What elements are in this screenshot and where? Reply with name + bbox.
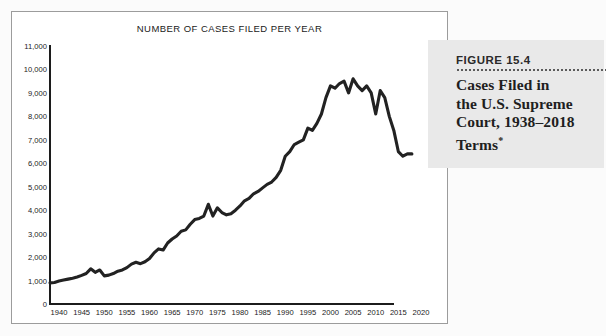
x-tick-label: 1950: [96, 308, 113, 317]
chart-title: NUMBER OF CASES FILED PER YEAR: [12, 23, 447, 34]
y-tick-label: 4,000: [12, 206, 47, 215]
x-tick-label: 1970: [186, 308, 203, 317]
x-tick-label: 1995: [299, 308, 316, 317]
figure-title-line-2: the U.S. Supreme: [456, 95, 604, 114]
x-tick-label: 1955: [118, 308, 135, 317]
plot-area: [50, 46, 430, 304]
caption-dotted-rule: [456, 69, 606, 71]
x-tick-label: 1965: [164, 308, 181, 317]
y-tick-label: 6,000: [12, 159, 47, 168]
x-tick-label: 2000: [322, 308, 339, 317]
figure-caption-panel: FIGURE 15.4 Cases Filed in the U.S. Supr…: [428, 40, 604, 168]
x-tick-label: 2020: [412, 308, 429, 317]
y-tick-label: 5,000: [12, 182, 47, 191]
y-tick-label: 1,000: [12, 276, 47, 285]
figure-title: Cases Filed in the U.S. Supreme Court, 1…: [456, 76, 604, 154]
x-tick-label: 2010: [367, 308, 384, 317]
y-tick-label: 7,000: [12, 135, 47, 144]
figure-title-line-4-wrap: Terms*: [456, 132, 604, 155]
x-tick-label: 2015: [390, 308, 407, 317]
x-tick-label: 2005: [345, 308, 362, 317]
figure-number-label: FIGURE 15.4: [456, 54, 604, 66]
figure-title-line-1: Cases Filed in: [456, 76, 604, 95]
y-tick-label: 10,000: [12, 65, 47, 74]
cases-filed-line-series: [50, 46, 430, 304]
x-tick-label: 1985: [254, 308, 271, 317]
y-tick-label: 9,000: [12, 88, 47, 97]
chart-panel: NUMBER OF CASES FILED PER YEAR 01,0002,0…: [11, 11, 448, 324]
x-tick-label: 1990: [277, 308, 294, 317]
y-tick-label: 3,000: [12, 229, 47, 238]
x-tick-label: 1945: [73, 308, 90, 317]
footnote-marker: *: [498, 135, 503, 146]
x-tick-label: 1960: [141, 308, 158, 317]
x-tick-label: 1980: [232, 308, 249, 317]
figure-title-line-4: Terms: [456, 136, 498, 153]
x-axis-tick-labels: 1940194519501955196019651970197519801985…: [12, 308, 449, 322]
y-tick-label: 2,000: [12, 253, 47, 262]
y-tick-label: 11,000: [12, 42, 47, 51]
y-tick-label: 8,000: [12, 112, 47, 121]
x-tick-label: 1940: [51, 308, 68, 317]
x-tick-label: 1975: [209, 308, 226, 317]
y-axis-tick-labels: 01,0002,0003,0004,0005,0006,0007,0008,00…: [12, 46, 47, 304]
figure-title-line-3: Court, 1938–2018: [456, 113, 604, 132]
